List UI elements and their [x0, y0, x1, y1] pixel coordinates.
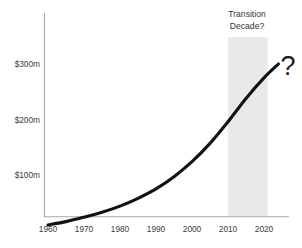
y-tick-label-300m: $300m [15, 59, 40, 69]
y-tick-label-200m: $200m [15, 115, 40, 125]
x-tick-label-1960: 1960 [39, 224, 58, 234]
x-tick-label-1980: 1980 [111, 224, 130, 234]
x-tick-label-2010: 2010 [219, 224, 238, 234]
x-tick-label-1990: 1990 [147, 224, 166, 234]
transition-decade-band [228, 37, 268, 217]
chart-container: $300m $200m $100m 1960 1970 1980 1990 20… [0, 0, 302, 248]
y-tick-label-100m: $100m [15, 170, 40, 180]
x-tick-label-2000: 2000 [183, 224, 202, 234]
uncertainty-question-mark: ? [280, 51, 295, 81]
chart-svg: $300m $200m $100m 1960 1970 1980 1990 20… [0, 0, 302, 248]
transition-decade-label-line1: Transition [228, 9, 266, 19]
x-tick-label-2020: 2020 [255, 224, 274, 234]
x-tick-label-1970: 1970 [75, 224, 94, 234]
transition-decade-label-line2: Decade? [230, 21, 265, 31]
